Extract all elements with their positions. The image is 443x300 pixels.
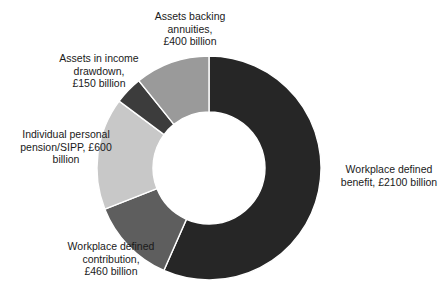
slice-label-assets-in-income-drawdown: Assets in income drawdown, £150 billion: [38, 52, 160, 90]
pension-assets-donut-chart: Assets backing annuities, £400 billion A…: [0, 0, 443, 300]
slice-label-workplace-defined-benefit: Workplace defined benefit, £2100 billion: [336, 163, 442, 188]
slice-label-individual-personal-pension-sipp: Individual personal pension/SIPP, £600 b…: [2, 128, 130, 166]
slice-label-workplace-defined-contribution: Workplace defined contribution, £460 bil…: [46, 240, 176, 278]
slice-label-assets-backing-annuities: Assets backing annuities, £400 billion: [128, 10, 252, 48]
